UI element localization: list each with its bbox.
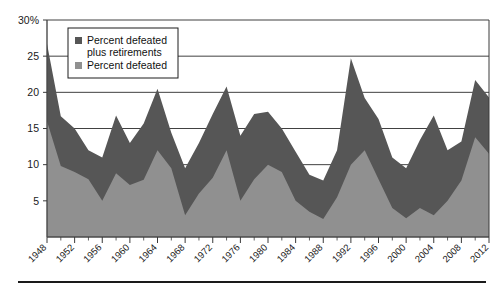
y-tick-label-25: 25: [27, 50, 39, 62]
y-tick-label-15: 15: [27, 122, 39, 134]
legend-label-defeated-line1: Percent defeated: [87, 59, 167, 71]
y-tick-label-10: 10: [27, 158, 39, 170]
legend-label-total-line1: Percent defeated: [87, 34, 167, 46]
stacked-area-chart: 51015202530% 194819521956196019641968197…: [0, 0, 500, 291]
y-tick-label-30: 30%: [18, 14, 39, 26]
legend-swatch-defeated: [75, 62, 82, 69]
y-tick-label-20: 20: [27, 86, 39, 98]
chart-figure: 51015202530% 194819521956196019641968197…: [0, 0, 500, 291]
legend-label-total-line2: plus retirements: [87, 46, 162, 58]
legend-swatch-total: [75, 37, 82, 44]
y-tick-label-5: 5: [33, 195, 39, 207]
chart-legend: Percent defeated plus retirements Percen…: [68, 28, 178, 78]
